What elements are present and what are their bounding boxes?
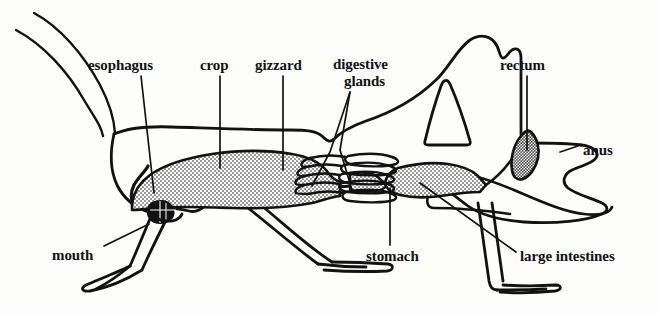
label-gizzard: gizzard [255, 58, 302, 74]
rectum-organ [511, 131, 538, 180]
label-large-intestines: large intestines [520, 249, 615, 265]
label-esophagus: esophagus [88, 58, 153, 74]
hind-femur [425, 80, 471, 145]
leader-anus [560, 146, 578, 152]
grasshopper-digestive-diagram: esophagus crop gizzard digestive glands … [0, 0, 660, 314]
foreleg [83, 214, 168, 291]
foreleg-femur-2 [142, 216, 168, 270]
label-digestive-glands-line1: digestive [333, 57, 388, 73]
antennae-group [16, 13, 115, 136]
hind-tarsus [497, 289, 546, 290]
large-intestine-tube [486, 156, 514, 185]
label-anus: anus [583, 143, 613, 159]
diagram-artwork [0, 0, 660, 314]
stomach-organ [386, 163, 487, 197]
label-crop: crop [200, 58, 229, 74]
middle-tibia [318, 264, 366, 267]
label-mouth: mouth [52, 248, 93, 264]
dorsal-line [114, 36, 581, 145]
label-digestive-glands-line2: glands [344, 74, 385, 90]
antenna-lower [16, 30, 103, 136]
middle-femur-2 [262, 206, 332, 262]
middle-femur [248, 208, 318, 264]
label-rectum: rectum [500, 58, 545, 74]
label-stomach: stomach [366, 249, 419, 265]
